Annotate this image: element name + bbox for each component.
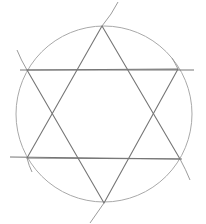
circumscribed-circle (16, 26, 192, 202)
triangle-upward (27, 26, 180, 159)
hexagram-drawing (0, 0, 206, 224)
construction-arc (90, 203, 104, 223)
construction-arc (102, 2, 118, 26)
horizontal-lines (10, 70, 194, 159)
construction-arcs (17, 2, 190, 223)
drawing-canvas: Hexagram inscribed in a circle (0, 0, 206, 224)
construction-arc (180, 159, 190, 180)
star-triangles (27, 26, 180, 203)
construction-arc (172, 58, 178, 69)
construction-arc (17, 50, 27, 70)
